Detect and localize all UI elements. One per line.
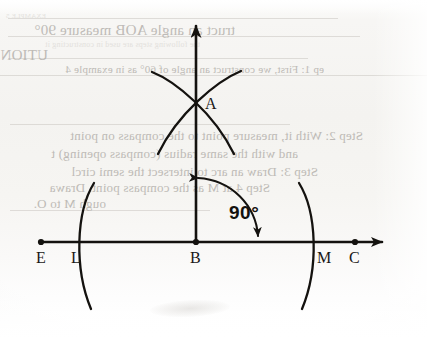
scanned-page: EXAMPLE 5truct an angle AOB measure 90°t…: [0, 0, 427, 338]
point-label-b: B: [190, 250, 201, 266]
angle-measure-label: 90°: [229, 203, 259, 222]
point-label-m: M: [317, 250, 331, 266]
point-label-c: C: [349, 250, 360, 266]
construction-figure: [0, 0, 427, 338]
point-label-a: A: [205, 96, 217, 112]
point-label-l: L: [71, 250, 81, 266]
point-dot-C: [352, 239, 358, 245]
point-dot-E: [38, 239, 44, 245]
point-dot-B: [193, 239, 199, 245]
arc-right-through-M: [299, 183, 314, 309]
point-label-e: E: [36, 250, 46, 266]
arc-left-through-L: [79, 183, 94, 309]
